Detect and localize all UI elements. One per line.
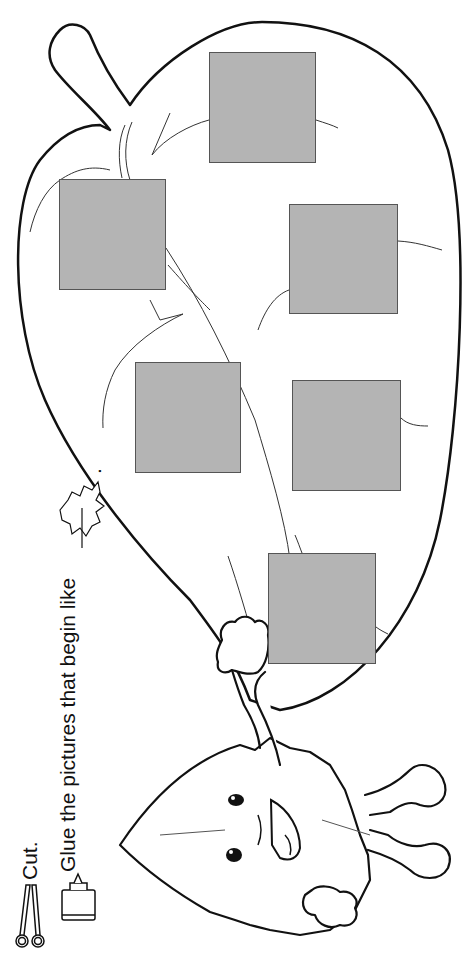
scissors-icon bbox=[16, 885, 44, 947]
instruction-cut: Cut. bbox=[18, 841, 42, 880]
glue-bottle-icon bbox=[62, 874, 95, 920]
instruction-glue: Glue the pictures that begin like bbox=[56, 578, 80, 872]
leaf-character bbox=[120, 617, 450, 935]
glue-label: Glue the pictures that begin like bbox=[56, 578, 79, 872]
glue-box-2[interactable] bbox=[59, 179, 166, 290]
glue-period: . bbox=[82, 468, 105, 474]
cut-label: Cut. bbox=[18, 841, 41, 880]
instruction-glue-period: . bbox=[82, 468, 106, 474]
glue-box-6[interactable] bbox=[268, 553, 376, 664]
maple-leaf-icon bbox=[60, 482, 104, 548]
glue-box-1[interactable] bbox=[209, 52, 316, 163]
glue-box-3[interactable] bbox=[289, 204, 398, 314]
glue-box-5[interactable] bbox=[292, 380, 401, 491]
glue-box-4[interactable] bbox=[135, 362, 241, 473]
